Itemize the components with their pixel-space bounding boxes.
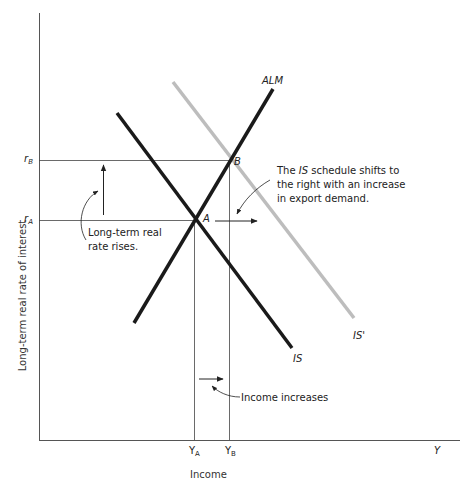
- income-leader-curve: [212, 386, 240, 397]
- shift-annotation-line-3: in export demand.: [277, 192, 405, 206]
- rB-sub: B: [28, 158, 33, 166]
- shift-post: schedule shifts to: [308, 165, 399, 176]
- income-annotation: Income increases: [241, 391, 328, 405]
- point-b-label: B: [234, 157, 241, 167]
- shift-annotation-line-1: The IS schedule shifts to: [277, 164, 405, 178]
- alm-label: ALM: [262, 76, 283, 86]
- shift-is: IS: [299, 165, 308, 176]
- YA-tick-label: YA: [189, 446, 200, 458]
- rA-tick-label: rA: [24, 214, 33, 226]
- shift-annotation-line-2: the right with an increase: [277, 178, 405, 192]
- YB-sub: B: [231, 450, 236, 458]
- is-alm-diagram: [0, 0, 462, 479]
- rA-sub: A: [28, 218, 33, 226]
- rate-annotation-line-2: rate rises.: [88, 240, 162, 254]
- rate-annotation-line-1: Long-term real: [88, 226, 162, 240]
- rate-annotation: Long-term real rate rises.: [88, 226, 162, 254]
- YB-tick-label: YB: [225, 446, 236, 458]
- rB-tick-label: rB: [24, 154, 33, 166]
- YA-sub: A: [195, 450, 200, 458]
- x-axis-end-label: Y: [434, 446, 440, 456]
- is-prime-label: IS': [353, 331, 365, 341]
- shift-pre: The: [277, 165, 299, 176]
- is-label: IS: [293, 354, 302, 364]
- point-a-label: A: [203, 214, 210, 224]
- x-axis-label: Income: [190, 470, 227, 479]
- shift-annotation: The IS schedule shifts to the right with…: [277, 164, 405, 206]
